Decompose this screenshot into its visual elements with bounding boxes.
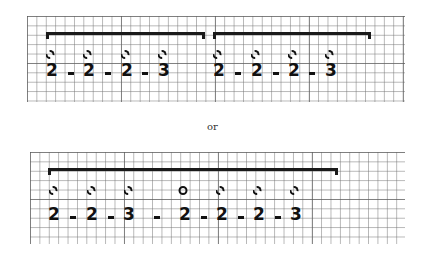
beat-count: 2 (46, 62, 58, 79)
note-circle-icon (179, 186, 188, 195)
count-separator-dash (108, 216, 114, 219)
beat-count: 2 (253, 206, 265, 223)
beat-count: 3 (158, 62, 170, 79)
beat-count: 2 (48, 206, 60, 223)
count-separator-dash (273, 72, 279, 75)
count-separator-dash (309, 72, 315, 75)
count-separator-dash (238, 216, 244, 219)
beat-count: 2 (86, 206, 98, 223)
measure-bracket (213, 32, 371, 39)
note-circle-icon (216, 186, 225, 195)
note-circle-icon (251, 50, 260, 59)
beat-count: 2 (288, 62, 300, 79)
count-separator-dash (275, 216, 281, 219)
beat-count: 3 (290, 206, 302, 223)
note-circle-icon (288, 50, 297, 59)
count-separator-dash (105, 72, 111, 75)
note-circle-icon (325, 50, 334, 59)
measure-bracket (48, 168, 338, 175)
count-separator-dash (235, 72, 241, 75)
top-system-graph-paper (27, 16, 405, 102)
beat-count: 3 (123, 206, 135, 223)
note-circle-icon (83, 50, 92, 59)
beat-count: 2 (216, 206, 228, 223)
beat-count: 2 (83, 62, 95, 79)
count-separator-dash (70, 216, 76, 219)
note-circle-icon (46, 50, 55, 59)
note-circle-icon (49, 186, 58, 195)
note-circle-icon (290, 186, 299, 195)
beat-count: 3 (325, 62, 337, 79)
count-separator-dash (154, 216, 160, 219)
note-circle-icon (121, 50, 130, 59)
beat-count: 2 (121, 62, 133, 79)
note-circle-icon (124, 186, 133, 195)
note-circle-icon (213, 50, 222, 59)
count-separator-dash (68, 72, 74, 75)
count-separator-dash (142, 72, 148, 75)
note-circle-icon (158, 50, 167, 59)
measure-bracket (46, 32, 205, 39)
separator-or-label: or (0, 121, 425, 132)
beat-count: 2 (251, 62, 263, 79)
note-circle-icon (87, 186, 96, 195)
beat-count: 2 (179, 206, 191, 223)
beat-count: 2 (213, 62, 225, 79)
bottom-system-graph-paper (30, 152, 405, 244)
note-circle-icon (253, 186, 262, 195)
count-separator-dash (201, 216, 207, 219)
